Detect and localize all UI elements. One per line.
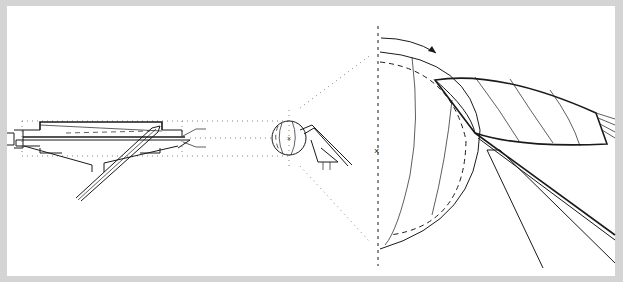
rotation-arrow bbox=[381, 38, 436, 53]
part-side-view bbox=[7, 121, 206, 201]
arrow-head-icon bbox=[428, 46, 436, 53]
axis-center-mark: × bbox=[374, 146, 379, 156]
sphere-detail: × bbox=[272, 121, 352, 170]
projection-lines bbox=[182, 54, 372, 242]
enlarged-view: × bbox=[374, 26, 480, 266]
sphere-center-mark: × bbox=[287, 135, 291, 142]
technical-diagram: × × bbox=[0, 0, 623, 282]
tool-shank bbox=[475, 133, 615, 268]
